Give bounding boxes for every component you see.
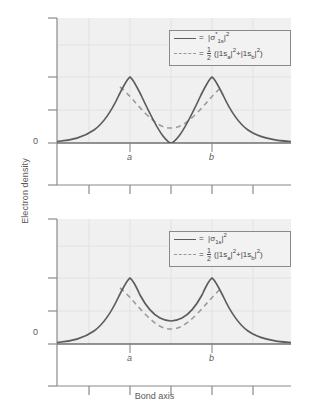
- legend-expression-atomic-average-top: = 12 (|1sa|2+|1sb|2): [199, 46, 263, 62]
- nucleus-label-b-bottom: b: [209, 353, 214, 363]
- legend-bonding: = |σ1s|2 = 12 (|1sa|2+|1sb|2): [169, 231, 291, 267]
- legend-row-antibonding-mo: = |σ*1s|2: [174, 34, 285, 42]
- legend-row-bonding-mo: = |σ1s|2: [174, 235, 285, 243]
- legend-row-atomic-average-bottom: = 12 (|1sa|2+|1sb|2): [174, 247, 285, 263]
- y-axis-title: Electron density: [20, 121, 30, 261]
- zero-label-bottom: 0: [33, 327, 38, 337]
- panel-bonding: [0, 200, 309, 400]
- legend-antibonding: = |σ*1s|2 = 12 (|1sa|2+|1sb|2): [169, 30, 291, 66]
- y-ticks-bottom: [48, 219, 57, 386]
- x-ticks-top: [89, 185, 253, 194]
- legend-swatch-solid-icon: [174, 38, 196, 39]
- legend-expression-antibonding: = |σ*1s|2: [199, 34, 229, 42]
- y-ticks-top: [48, 18, 57, 185]
- legend-expression-bonding: = |σ1s|2: [199, 235, 227, 243]
- legend-expression-atomic-average-bottom: = 12 (|1sa|2+|1sb|2): [199, 247, 263, 263]
- zero-label-top: 0: [33, 136, 38, 146]
- legend-swatch-dashed-icon: [174, 53, 196, 54]
- electron-density-figure: 0 a b = |σ*1s|2 = 12 (|1sa|2+|1sb|2): [0, 0, 309, 419]
- legend-row-atomic-average-top: = 12 (|1sa|2+|1sb|2): [174, 46, 285, 62]
- nucleus-label-a-bottom: a: [127, 353, 132, 363]
- nucleus-label-b-top: b: [209, 152, 214, 162]
- x-axis-title: Bond axis: [0, 391, 309, 401]
- legend-swatch-dashed-icon: [174, 254, 196, 255]
- legend-swatch-solid-icon: [174, 239, 196, 240]
- nucleus-label-a-top: a: [127, 152, 132, 162]
